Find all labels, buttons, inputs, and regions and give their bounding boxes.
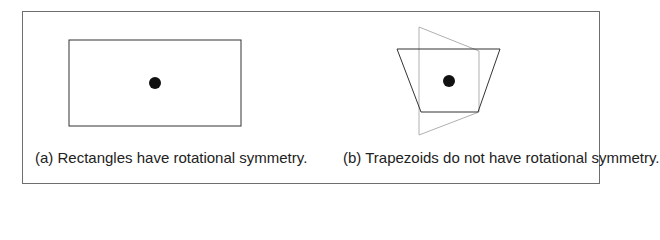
caption-b: (b) Trapezoids do not have rotational sy… <box>343 149 660 166</box>
caption-a: (a) Rectangles have rotational symmetry. <box>35 149 307 166</box>
trapezoid-center-dot <box>443 75 455 87</box>
rectangle-center-dot <box>149 77 161 89</box>
